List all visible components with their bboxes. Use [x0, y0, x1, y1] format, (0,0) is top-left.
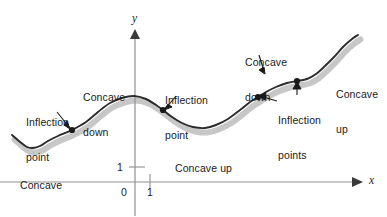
origin-label: 0	[121, 186, 127, 198]
annotation-line-2: up	[20, 215, 62, 217]
annotation-line-1: Concave up	[175, 163, 232, 175]
annotation-concave-down-left: Concave down	[83, 69, 125, 161]
annotation-concave-up-right: Concave up	[336, 66, 378, 158]
concavity-figure: Inflection point Concave up Concave down…	[0, 0, 387, 216]
annotation-line-1: Concave	[245, 57, 287, 69]
y-axis-label: y	[132, 12, 137, 24]
annotation-line-1: Concave	[20, 180, 62, 192]
annotation-line-1: Concave	[336, 89, 378, 101]
annotation-line-2: up	[336, 124, 378, 136]
annotation-line-1: Inflection	[278, 115, 321, 127]
y-axis-arrowhead	[130, 29, 140, 39]
annotation-concave-up-left: Concave up	[20, 157, 62, 216]
annotation-line-1: Inflection	[165, 95, 208, 107]
annotation-line-2: points	[278, 150, 321, 162]
y-axis-tick-label-1: 1	[117, 161, 123, 173]
annotation-inflection-points-right: Inflection points	[278, 92, 321, 184]
x-axis-arrowhead	[352, 177, 363, 187]
annotation-line-1: Concave	[83, 92, 125, 104]
annotation-line-2: down	[83, 127, 125, 139]
annotation-line-1: Inflection	[26, 117, 69, 129]
x-axis-label: x	[369, 174, 374, 186]
annotation-concave-up-mid: Concave up	[175, 140, 232, 198]
x-axis-tick-label-1: 1	[147, 186, 153, 198]
